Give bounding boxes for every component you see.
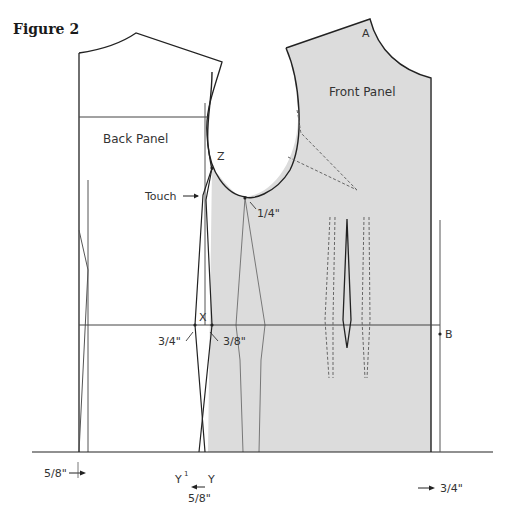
point-x-right-marker <box>210 323 213 326</box>
point-x-left-marker <box>193 323 196 326</box>
back-left-taper <box>79 230 88 452</box>
five-eighth-left-arrowhead <box>80 471 86 476</box>
five-eighth-bottom-label: 5/8" <box>188 492 211 505</box>
five-eighth-bottom-arrowhead <box>191 485 197 490</box>
point-z-marker <box>210 166 213 169</box>
three-quarter-left-label: 3/4" <box>158 335 181 348</box>
five-eighth-left-label: 5/8" <box>44 467 67 480</box>
point-y1-superscript: 1 <box>184 470 188 478</box>
three-eighth-label: 3/8" <box>223 335 246 348</box>
quarter-inch-label: 1/4" <box>257 207 280 220</box>
pattern-diagram: Back Panel Front Panel A Z B X Y Y 1 Tou… <box>0 0 509 521</box>
three-quarter-right-arrowhead <box>429 486 435 491</box>
back-panel-label: Back Panel <box>103 132 168 146</box>
point-b-label: B <box>445 328 453 341</box>
front-panel-shape <box>208 19 431 452</box>
point-x-label: X <box>199 311 207 324</box>
touch-label: Touch <box>144 190 177 203</box>
three-quarter-leader <box>186 332 193 341</box>
back-panel-outline <box>79 33 222 170</box>
three-quarter-right-label: 3/4" <box>440 482 463 495</box>
point-y1-label: Y <box>174 473 182 486</box>
touch-arrowhead <box>194 194 199 199</box>
point-y-label: Y <box>207 473 215 486</box>
point-b-marker <box>438 332 441 335</box>
front-panel-label: Front Panel <box>329 85 396 99</box>
point-a-label: A <box>362 27 370 40</box>
point-z-label: Z <box>217 150 225 163</box>
point-quarter-marker <box>243 196 246 199</box>
